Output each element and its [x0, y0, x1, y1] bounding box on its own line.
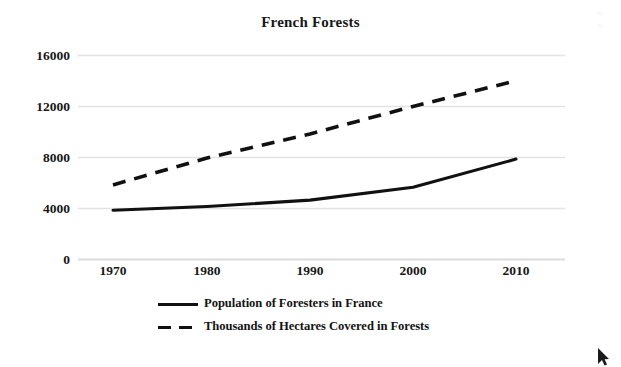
xtick-label-2010: 2010 — [481, 263, 551, 279]
legend-label-foresters: Population of Foresters in France — [204, 296, 383, 311]
legend-swatch-dashed-line-icon — [158, 321, 198, 333]
legend-item-hectares: Thousands of Hectares Covered in Forests — [0, 315, 621, 338]
legend-label-hectares: Thousands of Hectares Covered in Forests — [204, 319, 429, 334]
chart-canvas: French Forests 16000 12000 8000 4000 0 1… — [0, 0, 621, 367]
ytick-label-0: 0 — [6, 252, 70, 268]
ytick-label-12000: 12000 — [6, 99, 70, 115]
xtick-label-2000: 2000 — [378, 263, 448, 279]
ytick-label-8000: 8000 — [6, 150, 70, 166]
legend-swatch-solid-line-icon — [158, 298, 198, 310]
mouse-pointer-arrow-icon — [598, 348, 610, 366]
corner-scan-artifact: ≈≈ — [591, 8, 609, 48]
xtick-label-1970: 1970 — [78, 263, 148, 279]
chart-legend: Population of Foresters in France Thousa… — [0, 292, 621, 338]
xtick-label-1990: 1990 — [275, 263, 345, 279]
ytick-label-4000: 4000 — [6, 201, 70, 217]
legend-item-foresters: Population of Foresters in France — [0, 292, 621, 315]
gridlines — [78, 56, 565, 260]
xtick-label-1980: 1980 — [172, 263, 242, 279]
series-line-foresters — [113, 159, 516, 210]
ytick-label-16000: 16000 — [6, 48, 70, 64]
series-line-hectares — [113, 81, 516, 185]
